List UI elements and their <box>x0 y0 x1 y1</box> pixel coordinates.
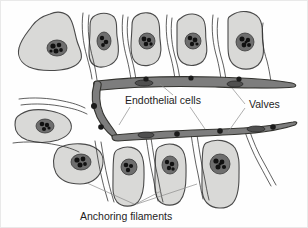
lymphatic-vessel-upper <box>94 75 296 90</box>
leader-lines-valves <box>228 88 245 132</box>
attachment-knob <box>98 124 104 130</box>
label-anchoring-filaments: Anchoring filaments <box>80 210 172 222</box>
tissue-cell <box>177 14 207 65</box>
tissue-cell <box>113 147 144 206</box>
label-endothelial-cells: Endothelial cells <box>125 94 201 106</box>
valve-cell <box>138 132 154 138</box>
attachment-knob <box>236 76 241 81</box>
attachment-knob <box>188 75 193 80</box>
tissue-cell <box>18 12 81 70</box>
tissue-cell <box>15 110 71 142</box>
tissue-cell <box>228 11 263 69</box>
attachment-knob <box>270 124 276 130</box>
valve-cell <box>227 81 243 87</box>
lymphatic-capillary-figure: Endothelial cells Valves Anchoring filam… <box>0 0 308 228</box>
tissue-cell <box>131 13 161 66</box>
diagram-canvas: Endothelial cells Valves Anchoring filam… <box>1 1 308 228</box>
attachment-knob <box>143 76 148 81</box>
valve-cell <box>135 80 153 86</box>
attachment-knob <box>91 103 97 109</box>
valve-cell <box>247 126 265 132</box>
tissue-cell-group-top <box>18 11 263 70</box>
attachment-knob <box>217 128 223 134</box>
tissue-cell <box>155 144 186 205</box>
leader-lines-endothelial <box>119 84 205 129</box>
lymphatic-vessel-lower <box>112 122 297 141</box>
tissue-cell-group-bottom <box>15 110 239 208</box>
label-valves: Valves <box>249 98 280 110</box>
tissue-cell <box>53 144 102 184</box>
tissue-cell <box>202 140 239 208</box>
attachment-knob <box>174 131 180 137</box>
tissue-cell <box>89 13 119 67</box>
